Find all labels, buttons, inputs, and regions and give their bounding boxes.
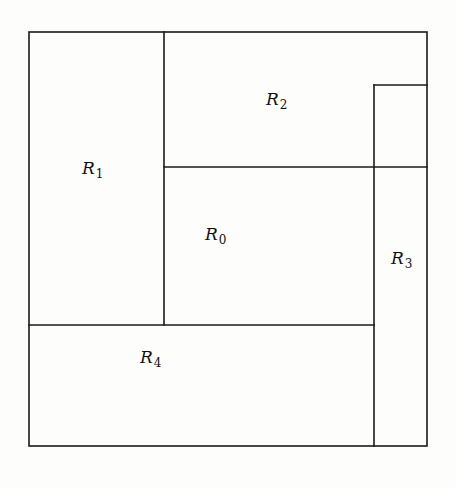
region-label-r4: R4 bbox=[140, 349, 161, 369]
outer-boundary bbox=[29, 32, 427, 446]
region-label-r3: R3 bbox=[391, 250, 412, 270]
partition-diagram bbox=[0, 0, 456, 488]
region-label-r1: R1 bbox=[82, 160, 103, 180]
region-label-r2: R2 bbox=[266, 91, 287, 111]
region-label-r0: R0 bbox=[205, 226, 226, 246]
